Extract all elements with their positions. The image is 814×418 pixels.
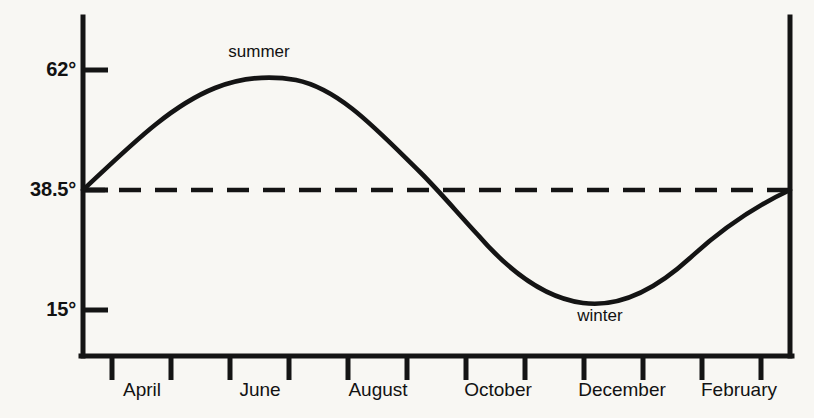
temperature-curve [83, 77, 790, 303]
x-axis-label-december: December [572, 379, 672, 401]
annotation-summer: summer [214, 42, 304, 62]
y-axis-label-62: 62° [14, 58, 76, 81]
y-axis-label-38-5: 38.5° [0, 178, 76, 201]
x-axis-label-april: April [112, 379, 172, 401]
x-axis-label-february: February [694, 379, 784, 401]
x-axis-label-june: June [230, 379, 290, 401]
y-axis-label-15: 15° [14, 298, 76, 321]
chart-plot-area [0, 0, 814, 418]
x-axis-label-august: August [342, 379, 414, 401]
annotation-winter: winter [560, 306, 640, 326]
x-axis-label-october: October [460, 379, 536, 401]
seasonal-temperature-chart: 62° 38.5° 15° April June August October … [0, 0, 814, 418]
